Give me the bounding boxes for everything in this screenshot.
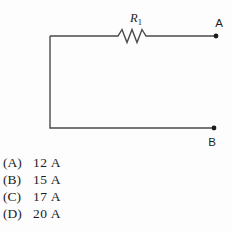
left-and-bottom-wire	[50, 36, 214, 128]
option-b-row: (B) 15 A	[3, 171, 163, 188]
answer-options: (A) 12 A (B) 15 A (C) 17 A (D) 20 A	[3, 154, 163, 222]
option-c-row: (C) 17 A	[3, 188, 163, 205]
option-a-row: (A) 12 A	[3, 154, 163, 171]
option-d-value: 20 A	[33, 205, 61, 222]
option-b-letter: (B)	[3, 171, 33, 188]
option-c-letter: (C)	[3, 188, 33, 205]
option-b-value: 15 A	[33, 171, 61, 188]
terminal-a-dot	[214, 34, 219, 39]
resistor-label: R1	[129, 11, 142, 27]
question-page: R1 A B (A) 12 A (B) 15 A (C) 17 A (D) 20…	[0, 0, 232, 233]
resistor-label-base: R	[129, 11, 138, 25]
option-d-row: (D) 20 A	[3, 205, 163, 222]
circuit-diagram: R1 A B	[0, 0, 232, 152]
option-a-value: 12 A	[33, 154, 61, 171]
top-wire-with-resistor	[50, 30, 216, 43]
terminal-b-label: B	[208, 136, 216, 148]
option-c-value: 17 A	[33, 188, 61, 205]
resistor-label-subscript: 1	[138, 17, 142, 27]
terminal-b-dot	[212, 126, 217, 131]
option-d-letter: (D)	[3, 205, 33, 222]
terminal-a-label: A	[215, 17, 223, 29]
option-a-letter: (A)	[3, 154, 33, 171]
